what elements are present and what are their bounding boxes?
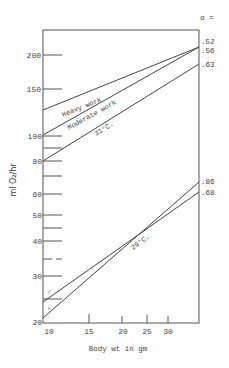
x-tick-25: 25 [142,327,152,336]
line-29c-lower [43,182,199,318]
x-tick-30: 30 [163,327,173,336]
y-axis-ticks [43,55,62,299]
alpha-header: α = [200,14,214,22]
y-tick-200: 200 [27,51,42,60]
y-tick-40: 40 [32,237,42,246]
exponent-56: .56 [201,47,215,55]
chart: 200 150 100 80 60 50 40 30 20 ml O₂/hr 1… [0,0,229,368]
y-tick-30: 30 [32,272,42,281]
label-female: ♀ [47,305,51,313]
x-axis-title: Body wt in gm [89,345,148,353]
x-tick-15: 15 [84,327,94,336]
x-axis-ticks [89,314,168,323]
line-29c-upper [43,192,199,302]
y-axis-title: ml O₂/hr [9,163,18,197]
exponent-52: .52 [201,38,215,46]
exponent-68: .68 [201,189,215,197]
x-axis-labels: 10 15 20 25 30 [44,327,173,336]
y-tick-80: 80 [32,157,42,166]
y-tick-50: 50 [32,211,42,220]
label-29c: 29°C. [129,233,151,252]
y-axis-labels: 200 150 100 80 60 50 40 30 20 [27,51,43,327]
y-tick-60: 60 [32,190,42,199]
y-tick-20: 20 [32,318,42,327]
series-lines [43,47,199,318]
plot-frame [43,30,199,323]
x-tick-10: 10 [44,327,54,336]
label-male: ♂ [47,288,51,296]
exponent-86: .86 [201,178,215,186]
y-tick-150: 150 [27,85,42,94]
x-tick-20: 20 [118,327,128,336]
line-moderate-work [43,47,199,135]
y-tick-100: 100 [28,132,43,141]
exponent-63: .63 [201,61,215,69]
